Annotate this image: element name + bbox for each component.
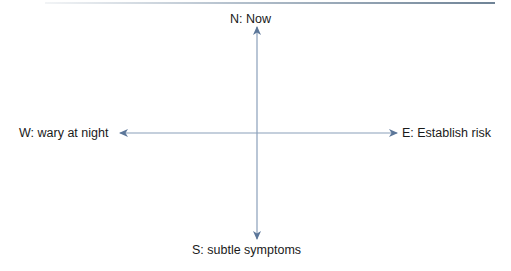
south-label: S: subtle symptoms <box>192 243 301 257</box>
east-label: E: Establish risk <box>402 126 491 140</box>
west-label: W: wary at night <box>19 126 108 140</box>
north-label: N: Now <box>230 12 271 26</box>
